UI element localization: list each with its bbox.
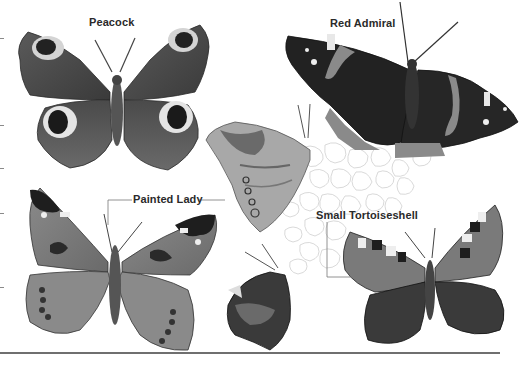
bottom-rule [0, 352, 500, 354]
peacock-butterfly-illustration [19, 25, 209, 170]
butterfly-identification-plate: Peacock Red Admiral Painted Lady Small T… [0, 0, 520, 366]
painted-lady-leader-line [108, 200, 132, 225]
label-small-tortoiseshell: Small Tortoiseshell [316, 209, 418, 221]
small-tortoiseshell-underside-illustration [227, 244, 290, 350]
illustration-canvas [0, 0, 520, 366]
red-admiral-butterfly-illustration [286, 2, 518, 158]
small-tortoiseshell-butterfly-illustration [343, 205, 504, 343]
label-peacock: Peacock [89, 16, 134, 28]
label-painted-lady: Painted Lady [133, 193, 203, 205]
painted-lady-butterfly-illustration [26, 188, 217, 350]
label-red-admiral: Red Admiral [330, 17, 395, 29]
painted-lady-underside-illustration [206, 104, 310, 232]
